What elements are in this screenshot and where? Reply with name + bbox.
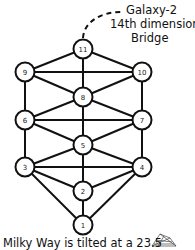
svg-text:6: 6 — [23, 117, 28, 125]
node-3: 3 — [16, 158, 35, 177]
svg-text:5: 5 — [81, 142, 85, 150]
svg-text:2: 2 — [81, 188, 85, 196]
node-1: 1 — [74, 216, 93, 235]
node-5: 5 — [74, 136, 93, 155]
node-10: 10 — [133, 63, 152, 82]
node-4: 4 — [133, 158, 152, 177]
caption-text: Milky Way is tilted at a 23.5 — [3, 236, 162, 250]
svg-text:4: 4 — [140, 164, 145, 172]
svg-text:10: 10 — [138, 69, 147, 77]
svg-text:11: 11 — [79, 46, 88, 54]
svg-text:7: 7 — [140, 117, 144, 125]
svg-text:3: 3 — [23, 164, 27, 172]
node-8: 8 — [74, 88, 93, 107]
svg-text:8: 8 — [81, 94, 85, 102]
node-11: 11 — [74, 40, 93, 59]
node-9: 9 — [16, 63, 35, 82]
svg-text:9: 9 — [23, 69, 27, 77]
svg-text:1: 1 — [81, 222, 85, 230]
node-7: 7 — [133, 111, 152, 130]
annotation-galaxy-2: Galaxy-2 — [126, 4, 177, 17]
node-6: 6 — [16, 111, 35, 130]
annotation-bridge: Bridge — [131, 32, 169, 45]
node-2: 2 — [74, 182, 93, 201]
annotation-14th-dimension: 14th dimension — [110, 18, 195, 31]
